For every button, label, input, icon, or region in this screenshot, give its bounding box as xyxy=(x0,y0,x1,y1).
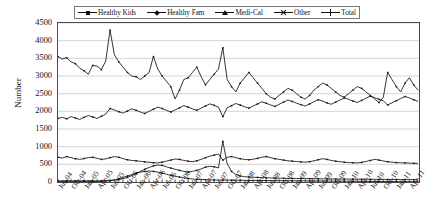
data-point xyxy=(109,108,111,110)
data-point xyxy=(161,165,163,167)
data-point xyxy=(135,110,137,112)
data-point xyxy=(213,105,215,107)
data-point xyxy=(265,156,267,158)
data-point xyxy=(413,99,415,101)
data-point xyxy=(300,97,302,99)
data-point xyxy=(205,166,207,168)
legend-marker-star-icon xyxy=(321,9,340,16)
legend-marker-triangle-icon xyxy=(215,9,234,16)
chart-legend: Healthy Kids Healthy Fam Medi-Cal Other … xyxy=(74,6,360,19)
data-point xyxy=(309,103,311,105)
legend-item-total: Total xyxy=(321,9,356,17)
data-point xyxy=(352,162,354,164)
data-point xyxy=(213,74,215,76)
data-point xyxy=(58,157,59,159)
legend-label: Total xyxy=(341,9,356,17)
data-point xyxy=(318,86,320,88)
data-point xyxy=(283,91,285,93)
data-point xyxy=(326,102,328,104)
data-point xyxy=(187,77,189,79)
data-point xyxy=(352,89,354,91)
data-point xyxy=(118,157,120,159)
data-point xyxy=(300,104,302,106)
data-point xyxy=(292,89,294,91)
data-point xyxy=(335,101,337,103)
data-point xyxy=(92,65,94,67)
legend-label: Healthy Kids xyxy=(98,9,136,17)
data-point xyxy=(248,107,250,109)
legend-item-other: Other xyxy=(274,9,310,17)
data-point xyxy=(352,100,354,102)
data-point xyxy=(265,93,267,95)
data-point xyxy=(170,159,172,161)
data-point xyxy=(196,66,198,68)
data-point xyxy=(83,158,85,160)
data-point xyxy=(101,69,103,71)
data-point xyxy=(404,162,406,164)
y-axis-tick-label: 2500 xyxy=(18,90,52,98)
data-point xyxy=(205,157,207,159)
data-point xyxy=(231,171,233,173)
legend-marker-x-icon xyxy=(274,9,293,16)
data-point xyxy=(222,47,224,49)
data-point xyxy=(101,159,103,161)
data-point xyxy=(222,159,224,161)
plot-area xyxy=(57,22,420,183)
y-axis-tick-label: 4500 xyxy=(18,19,52,27)
data-point xyxy=(274,106,276,108)
data-point xyxy=(75,158,77,160)
legend-marker-diamond-icon xyxy=(147,9,166,16)
data-point xyxy=(370,95,372,97)
y-axis-tick-label: 1500 xyxy=(18,125,52,133)
data-point xyxy=(196,110,198,112)
data-point xyxy=(66,118,68,120)
data-point xyxy=(161,162,163,164)
data-point xyxy=(135,76,137,78)
data-point xyxy=(300,161,302,163)
data-point xyxy=(109,157,111,159)
data-point xyxy=(179,107,181,109)
data-point xyxy=(170,86,172,88)
y-axis-tick-label: 2000 xyxy=(18,107,52,115)
data-point xyxy=(292,160,294,162)
data-point xyxy=(153,162,155,164)
data-point xyxy=(396,100,398,102)
data-point xyxy=(396,86,398,88)
data-point xyxy=(309,161,311,163)
data-point xyxy=(153,109,155,111)
data-point xyxy=(257,103,259,105)
data-point xyxy=(58,118,59,120)
data-point xyxy=(101,116,103,118)
legend-label: Other xyxy=(294,9,310,17)
data-point xyxy=(257,82,259,84)
data-point xyxy=(309,95,311,97)
data-point xyxy=(387,104,389,106)
data-point xyxy=(335,91,337,93)
y-axis-tick-label: 1000 xyxy=(18,143,52,151)
data-point xyxy=(196,160,198,162)
data-point xyxy=(144,113,146,115)
data-point xyxy=(179,89,181,91)
series-line-medi-cal xyxy=(58,96,418,119)
data-point xyxy=(248,159,250,161)
data-point xyxy=(231,105,233,107)
data-point xyxy=(344,162,346,164)
data-point xyxy=(257,158,259,160)
data-point xyxy=(135,160,137,162)
y-axis-tick-label: 4000 xyxy=(18,37,52,45)
data-point xyxy=(378,159,380,161)
data-point xyxy=(179,170,181,172)
data-point xyxy=(153,171,155,173)
data-point xyxy=(127,110,129,112)
data-point xyxy=(283,159,285,161)
data-point xyxy=(75,117,77,119)
legend-label: Healthy Fam xyxy=(167,9,204,17)
data-point xyxy=(144,75,146,77)
data-point xyxy=(326,84,328,86)
data-point xyxy=(179,159,181,161)
data-point xyxy=(66,156,68,158)
data-point xyxy=(387,161,389,163)
data-point xyxy=(239,158,241,160)
data-point xyxy=(161,108,163,110)
y-axis-tick-label: 3500 xyxy=(18,54,52,62)
